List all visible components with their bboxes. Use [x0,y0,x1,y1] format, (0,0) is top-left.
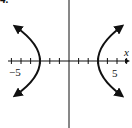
tick-label-5: 5 [112,67,118,79]
x-axis-label: x [123,46,129,58]
graph-canvas: 4. x −5 5 [0,0,132,128]
hyperbola-graph: 4. x −5 5 [0,0,132,128]
problem-number: 4. [0,0,9,5]
tick-label-neg5: −5 [9,66,21,78]
svg-text:4.: 4. [0,0,9,5]
